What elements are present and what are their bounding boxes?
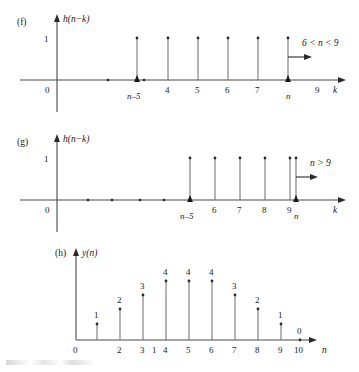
tick-marker-n-f — [285, 75, 291, 82]
stem-group-h: 1 2 3 4 4 4 3 — [94, 267, 302, 341]
data-label-h-4: 4 — [186, 267, 191, 277]
ytick-label-g: 1 — [44, 154, 49, 164]
data-label-h-8: 1 — [278, 310, 283, 320]
data-label-h-1: 2 — [117, 295, 122, 305]
xtick-label-g-0: n–5 — [180, 211, 194, 221]
shift-arrow-head-f — [304, 54, 312, 60]
panel-label-g: (g) — [17, 137, 28, 148]
xtick-label-f-5: n — [286, 91, 291, 101]
origin-label-g: 0 — [45, 205, 50, 215]
x-axis-arrow-h — [309, 337, 317, 343]
x-axis-arrow-f — [338, 77, 346, 83]
x-axis-arrow-g — [338, 197, 346, 203]
xtick-label-g-4: 9 — [287, 205, 292, 215]
data-label-h-6: 3 — [232, 281, 237, 291]
origin-label-f: 0 — [45, 85, 50, 95]
stem-chart-f: (f) h(n−k) k 0 1 — [0, 0, 359, 120]
y-axis-arrow-h — [73, 248, 79, 256]
x-axis-label-f: k — [333, 85, 338, 95]
xtick-label-h-6: 6 — [209, 345, 214, 355]
baseline-dot — [107, 79, 110, 82]
xtick-label-f-3: 6 — [225, 85, 230, 95]
shift-arrow-head-g — [310, 174, 318, 180]
data-label-h-0: 1 — [94, 310, 99, 320]
xtick-label-f-4: 7 — [255, 85, 260, 95]
xtick-label-g-5: n — [294, 211, 299, 221]
baseline-dot — [139, 199, 142, 202]
xtick-label-h-3: 3 — [140, 345, 145, 355]
xtick-label-g-3: 8 — [262, 205, 267, 215]
panel-label-h: (h) — [55, 248, 66, 259]
xtick-label-f-0: n–5 — [127, 91, 141, 101]
annotation-f: 6 < n < 9 — [302, 38, 339, 48]
xtick-label-h-10: 10 — [294, 345, 304, 355]
annotation-g: n > 9 — [310, 158, 331, 168]
xtick-label-h-2: 2 — [117, 345, 122, 355]
y-axis-label-h: y(n) — [81, 248, 97, 259]
page-scan-artifact — [6, 360, 96, 365]
stem-chart-g: (g) h(n−k) k 0 1 n–5 — [0, 120, 359, 240]
xtick-label-f-2: 5 — [195, 85, 200, 95]
baseline-dot — [163, 199, 166, 202]
panel-h: (h) y(n) n 0 1 2 3 4 — [0, 240, 359, 372]
xtick-label-h-9: 9 — [278, 345, 283, 355]
data-label-h-3: 4 — [163, 267, 168, 277]
panel-g: (g) h(n−k) k 0 1 n–5 — [0, 120, 359, 240]
baseline-dot — [111, 199, 114, 202]
x-axis-label-h: n — [322, 345, 327, 355]
y-axis-label-g: h(n−k) — [63, 134, 89, 145]
data-label-h-7: 2 — [255, 295, 260, 305]
tick-marker-n-minus-5-g — [187, 195, 193, 202]
stem-chart-h: (h) y(n) n 0 1 2 3 4 — [0, 240, 359, 372]
xtick-label-h-8: 8 — [255, 345, 260, 355]
baseline-dot — [87, 199, 90, 202]
xtick-label-h-7: 7 — [232, 345, 237, 355]
panel-f: (f) h(n−k) k 0 1 — [0, 0, 359, 120]
xtick-label-h-5: 5 — [186, 345, 191, 355]
xtick-label-g-2: 7 — [237, 205, 242, 215]
data-label-h-9: 0 — [297, 326, 302, 336]
tick-marker-n-minus-5-f — [134, 75, 140, 82]
data-label-h-5: 4 — [209, 267, 214, 277]
origin-label-h: 0 — [73, 345, 78, 355]
y-axis-label-f: h(n−k) — [63, 14, 89, 25]
stem-group-g — [189, 157, 298, 200]
y-axis-arrow-f — [54, 14, 60, 22]
ytick-label-f: 1 — [44, 34, 49, 44]
panel-label-f: (f) — [17, 17, 27, 28]
data-label-h-2: 3 — [140, 281, 145, 291]
x-axis-label-g: k — [333, 205, 338, 215]
xtick-label-h-stray: 1 — [152, 345, 157, 355]
xtick-label-g-1: 6 — [212, 205, 217, 215]
stem-group-f — [136, 37, 290, 80]
y-axis-arrow-g — [54, 134, 60, 142]
xtick-label-h-4: 4 — [163, 345, 168, 355]
tick-marker-n-g — [293, 195, 299, 202]
xtick-label-f-6: 9 — [315, 85, 320, 95]
baseline-dot — [143, 79, 146, 82]
xtick-label-f-1: 4 — [165, 85, 170, 95]
